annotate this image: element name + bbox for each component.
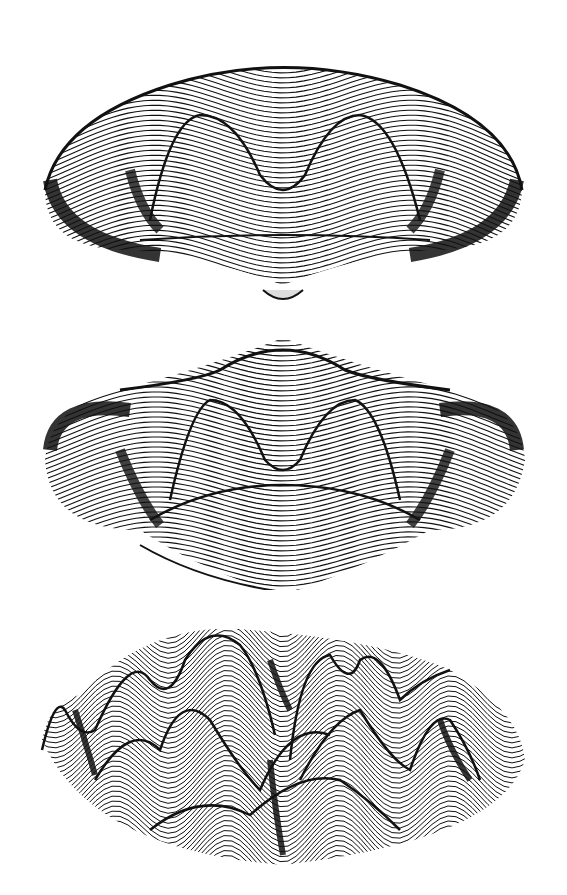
- surface-middle-drawing: [0, 330, 567, 590]
- surface-bottom-drawing: [0, 600, 567, 880]
- surface-plot-bottom: [0, 600, 567, 880]
- surface-plot-top: [0, 40, 567, 320]
- surface-top-drawing: [0, 40, 567, 320]
- surface-plot-middle: [0, 330, 567, 590]
